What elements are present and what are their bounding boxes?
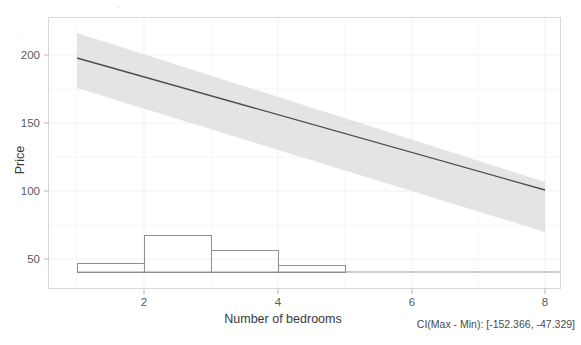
regression-figure: · · [0, 0, 581, 345]
x-tick-label-8: 8 [542, 296, 548, 308]
x-tick-label-4: 4 [275, 296, 282, 308]
y-tick-label-100: 100 [21, 185, 40, 197]
x-axis-title: Number of bedrooms [224, 312, 341, 326]
plot-canvas: · · [0, 0, 581, 345]
y-axis-title: Price [13, 146, 27, 175]
x-tick-label-2: 2 [141, 296, 147, 308]
histogram-bars [78, 236, 346, 273]
x-tick-label-6: 6 [409, 296, 415, 308]
scan-speck-top: · [118, 3, 121, 12]
ci-caption: CI(Max - Min): [-152.366, -47.329] [417, 318, 575, 330]
scan-speck-left: · [17, 35, 20, 44]
x-axis-ticks [144, 289, 545, 294]
regression-line [77, 58, 545, 190]
y-tick-label-50: 50 [27, 253, 40, 265]
histogram-bar [212, 251, 279, 273]
y-tick-label-200: 200 [21, 49, 40, 61]
confidence-band [77, 33, 545, 232]
histogram-bar [279, 266, 346, 273]
y-tick-label-150: 150 [21, 117, 40, 129]
histogram-bar [78, 264, 145, 273]
histogram-bar [145, 236, 212, 273]
